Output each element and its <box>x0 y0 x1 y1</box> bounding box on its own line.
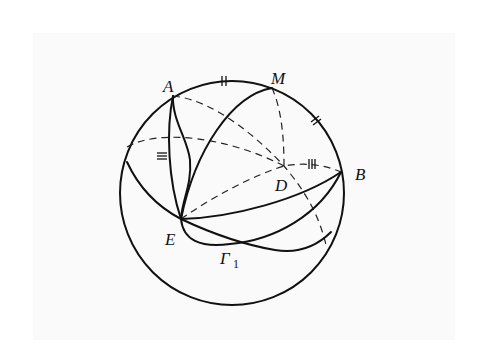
label-B: B <box>355 165 366 184</box>
arc-E-B-upper <box>181 172 341 219</box>
dashed-arc-E-D-B <box>181 164 341 219</box>
dashed-arc-M-D <box>272 88 284 166</box>
sphere-outline <box>120 81 344 305</box>
arc-E-Gamma-B <box>181 172 341 245</box>
label-Gamma-subscript: 1 <box>233 257 239 271</box>
tick-triple-left <box>157 153 167 159</box>
label-M: M <box>270 69 286 88</box>
label-E: E <box>164 230 176 249</box>
sphere-diagram: A M B D E Γ 1 <box>0 0 481 356</box>
arc-left-E-bottom-right <box>127 162 331 251</box>
label-D: D <box>274 176 288 195</box>
label-Gamma: Γ <box>219 249 231 268</box>
tick-triple-DB <box>309 159 315 169</box>
dashed-arc-equator-back <box>127 137 284 166</box>
label-A: A <box>162 77 174 96</box>
arc-M-E <box>181 88 272 219</box>
